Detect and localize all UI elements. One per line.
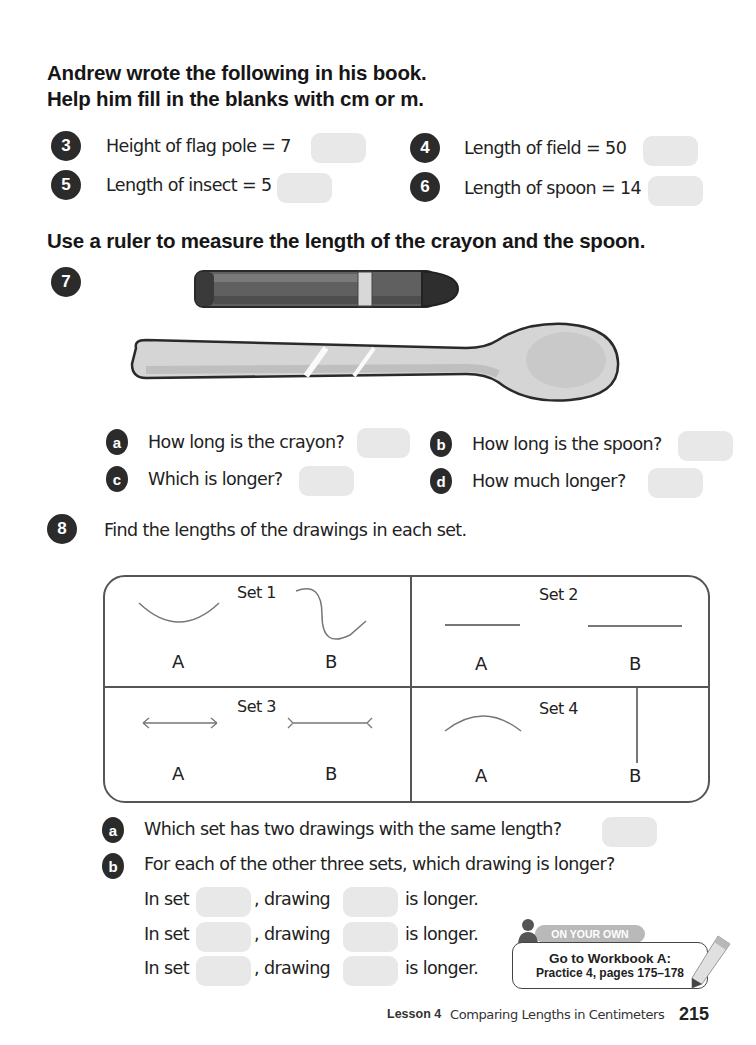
question-8b-label: b <box>102 853 124 879</box>
set-4-label: Set 4 <box>539 699 578 718</box>
question-number-6: 6 <box>410 172 440 202</box>
set-3-label-b: B <box>325 763 337 784</box>
section1-heading: Andrew wrote the following in his book. … <box>47 60 426 112</box>
fill-row-2-is-longer: is longer. <box>405 924 478 944</box>
section2-heading: Use a ruler to measure the length of the… <box>47 228 645 254</box>
set-4-drawing-b <box>636 688 638 763</box>
set-1-label-a: A <box>172 651 184 672</box>
question-7c-text: Which is longer? <box>148 469 283 489</box>
fill-row-2-drawing: , drawing <box>254 924 330 944</box>
on-your-own-badge: ON YOUR OWN <box>535 925 645 943</box>
fill-row-1-drawing-blank[interactable] <box>343 887 398 917</box>
fill-row-3-drawing-blank[interactable] <box>343 956 398 986</box>
workbook-line-1: Go to Workbook A: <box>549 951 671 966</box>
answer-blank-7c[interactable] <box>299 466 354 496</box>
fill-row-1-drawing: , drawing <box>254 889 330 909</box>
workbook-line-2: Practice 4, pages 175–178 <box>536 966 684 980</box>
set-1-label: Set 1 <box>237 583 276 602</box>
fill-row-1-is-longer: is longer. <box>405 889 478 909</box>
question-7d-text: How much longer? <box>472 471 626 491</box>
footer-lesson-title: Comparing Lengths in Centimeters <box>450 1007 664 1022</box>
set-4-label-b: B <box>629 765 641 786</box>
answer-blank-7b[interactable] <box>678 431 733 461</box>
fill-row-2-in-set: In set <box>144 924 189 944</box>
question-8a-label: a <box>102 817 124 843</box>
set-3-drawing-b <box>285 715 375 731</box>
fill-row-3-in-set: In set <box>144 958 189 978</box>
page-number: 215 <box>679 1004 709 1025</box>
spoon-image <box>126 318 622 408</box>
set-2-drawing-b <box>588 625 682 627</box>
answer-blank-5[interactable] <box>277 173 332 203</box>
question-4-text: Length of field = 50 <box>464 138 626 158</box>
question-7a-label: a <box>106 429 128 455</box>
heading-line-1: Andrew wrote the following in his book. <box>47 60 426 86</box>
question-7b-text: How long is the spoon? <box>472 434 662 454</box>
question-3-text: Height of flag pole = 7 <box>106 136 291 156</box>
set-2-label-b: B <box>629 653 641 674</box>
question-6-text: Length of spoon = 14 <box>464 178 641 198</box>
answer-blank-7a[interactable] <box>357 428 410 458</box>
question-7b-label: b <box>430 431 452 457</box>
pencil-icon <box>686 932 736 992</box>
fill-row-1-in-set: In set <box>144 889 189 909</box>
question-7d-label: d <box>430 468 452 494</box>
set-3-label: Set 3 <box>237 697 276 716</box>
answer-blank-4[interactable] <box>643 136 698 166</box>
set-1-drawing-b <box>290 585 370 655</box>
question-8-instruction: Find the lengths of the drawings in each… <box>104 520 467 540</box>
answer-blank-3[interactable] <box>311 133 366 163</box>
crayon-image <box>190 266 460 314</box>
answer-blank-7d[interactable] <box>648 468 703 498</box>
fill-row-2-drawing-blank[interactable] <box>343 922 398 952</box>
set-3-drawing-a <box>140 715 220 731</box>
set-2-label-a: A <box>475 653 487 674</box>
drawing-sets-table: Set 1 A B Set 2 A B Set 3 A B Set 4 A B <box>103 575 710 803</box>
set-4-drawing-a <box>441 707 525 737</box>
question-7a-text: How long is the crayon? <box>148 432 344 452</box>
fill-row-1-set-blank[interactable] <box>196 887 251 917</box>
set-1-label-b: B <box>325 651 337 672</box>
set-3-label-a: A <box>172 763 184 784</box>
question-number-8: 8 <box>47 514 77 544</box>
fill-row-3-drawing: , drawing <box>254 958 330 978</box>
question-7c-label: c <box>106 466 128 492</box>
set-4-label-a: A <box>475 765 487 786</box>
heading-line-2: Help him fill in the blanks with cm or m… <box>47 86 426 112</box>
question-number-7: 7 <box>51 267 81 297</box>
workbook-reference-box: Go to Workbook A: Practice 4, pages 175–… <box>512 942 708 989</box>
answer-blank-6[interactable] <box>648 176 703 206</box>
fill-row-3-is-longer: is longer. <box>405 958 478 978</box>
answer-blank-8a[interactable] <box>602 817 657 847</box>
fill-row-2-set-blank[interactable] <box>196 922 251 952</box>
question-8a-text: Which set has two drawings with the same… <box>144 819 561 839</box>
footer-lesson: Lesson 4 <box>387 1007 441 1021</box>
question-number-4: 4 <box>410 133 440 163</box>
question-5-text: Length of insect = 5 <box>106 175 272 195</box>
fill-row-3-set-blank[interactable] <box>196 956 251 986</box>
question-8b-text: For each of the other three sets, which … <box>144 854 615 874</box>
question-number-5: 5 <box>51 170 81 200</box>
set-2-label: Set 2 <box>539 585 578 604</box>
set-1-drawing-a <box>135 597 225 637</box>
question-number-3: 3 <box>51 131 81 161</box>
set-2-drawing-a <box>445 624 520 626</box>
